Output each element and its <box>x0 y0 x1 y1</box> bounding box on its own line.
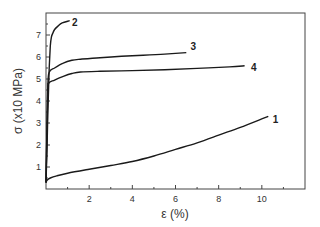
y-axis-label: σ (x10 MPa) <box>11 68 25 134</box>
plot-frame <box>46 13 305 189</box>
curve-1 <box>46 116 268 182</box>
x-axis-ticks: 246810 <box>68 185 284 204</box>
y-tick-label: 4 <box>36 96 41 106</box>
y-tick-label: 2 <box>36 140 41 150</box>
curves <box>46 21 268 183</box>
y-tick-label: 6 <box>36 52 41 62</box>
x-tick-label: 10 <box>257 194 267 204</box>
curve-2 <box>46 21 70 183</box>
y-tick-label: 3 <box>36 118 41 128</box>
x-tick-label: 2 <box>87 194 92 204</box>
x-tick-label: 6 <box>173 194 178 204</box>
y-tick-label: 7 <box>36 30 41 40</box>
curve-4 <box>46 66 245 183</box>
x-tick-label: 8 <box>216 194 221 204</box>
x-axis-label: ε (%) <box>161 207 188 221</box>
stress-strain-chart: 246810 1234567 1234 ε (%) σ (x10 MPa) <box>0 0 320 227</box>
y-tick-label: 5 <box>36 74 41 84</box>
x-tick-label: 4 <box>130 194 135 204</box>
curve-label-3: 3 <box>191 41 197 52</box>
curve-3 <box>46 53 186 183</box>
curve-label-4: 4 <box>251 62 257 73</box>
curve-label-2: 2 <box>72 17 78 28</box>
curve-label-1: 1 <box>273 114 279 125</box>
y-tick-label: 1 <box>36 162 41 172</box>
